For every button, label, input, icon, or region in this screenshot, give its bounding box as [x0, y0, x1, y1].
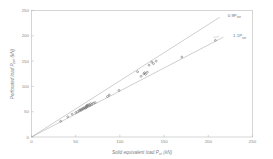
y-tick-label: 200	[22, 33, 30, 38]
data-point	[118, 89, 120, 91]
data-point	[148, 64, 150, 66]
x-tick-label: 250	[249, 139, 257, 144]
upper-bound-line	[32, 17, 220, 137]
x-tick-label: 150	[160, 139, 168, 144]
data-point	[137, 71, 139, 73]
x-tick-label: 50	[73, 139, 78, 144]
upper-reference-line-label-main: 0.9P	[228, 13, 237, 18]
y-tick-label: 100	[22, 84, 30, 89]
scatter-plot-svg: 050100150200250 050100150200250 0.9Pser1…	[0, 0, 273, 159]
data-point	[140, 75, 142, 77]
annotations-group: 0.9Pser1.1Pser	[228, 13, 247, 39]
lower-reference-line-label-main: 1.1P	[233, 33, 242, 38]
upper-reference-line-label: 0.9Pser	[228, 13, 241, 19]
upper-reference-line-label-sub: ser	[237, 15, 241, 19]
x-axis-ticks: 050100150200250	[30, 135, 256, 144]
y-tick-label: 250	[22, 8, 30, 13]
reference-lines-group	[32, 17, 224, 137]
data-point	[151, 61, 153, 63]
x-tick-label: 0	[30, 139, 33, 144]
y-tick-label: 150	[22, 59, 30, 64]
x-tick-label: 100	[116, 139, 124, 144]
chart-figure: 050100150200250 050100150200250 0.9Pser1…	[0, 0, 273, 159]
data-point	[214, 39, 216, 41]
x-axis-title-main: Solid equivalent load P	[112, 150, 160, 155]
data-point	[108, 94, 110, 96]
data-point	[181, 56, 183, 58]
x-tick-label: 200	[205, 139, 213, 144]
y-axis-ticks: 050100150200250	[22, 8, 34, 140]
data-point	[146, 71, 148, 73]
lower-reference-line-label-sub: ser	[242, 36, 246, 40]
y-axis-title-unit: (kN)	[10, 48, 15, 58]
plot-frame	[32, 11, 253, 138]
lower-label-leader-line	[214, 37, 220, 38]
data-point	[71, 113, 73, 115]
x-axis-title: Solid equivalent load Pse (kN)	[112, 150, 173, 156]
data-point	[153, 63, 155, 65]
y-tick-label: 0	[27, 135, 30, 140]
data-point	[67, 116, 69, 118]
y-axis-title-main: Perforated load P	[10, 62, 15, 99]
data-point	[155, 60, 157, 62]
y-tick-label: 50	[24, 109, 29, 114]
x-axis-title-unit: (kN)	[162, 150, 172, 155]
lower-reference-line-label: 1.1Pser	[233, 33, 246, 39]
y-axis-title: Perforated load Pper (kN)	[10, 48, 16, 99]
